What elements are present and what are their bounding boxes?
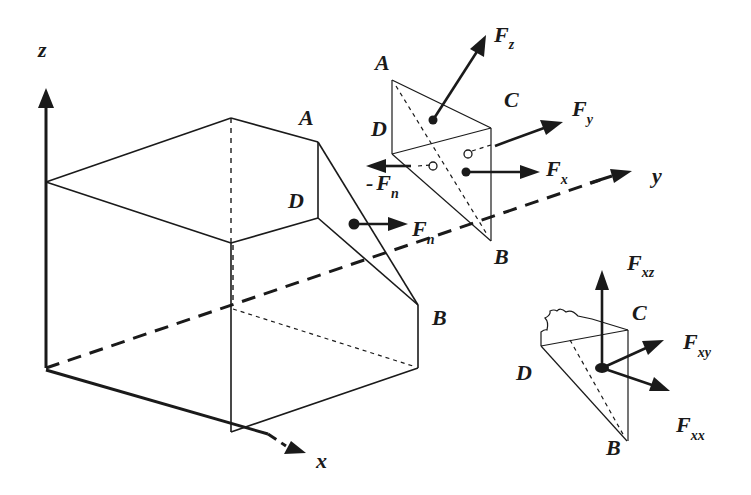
tet-vertex-C-label: C bbox=[504, 87, 519, 112]
detail-vertex-D-label: D bbox=[515, 360, 532, 385]
cube-hidden-bottom-edge bbox=[233, 309, 416, 367]
fx-label: Fx bbox=[545, 156, 568, 187]
z-axis-label: z bbox=[37, 37, 47, 62]
x-axis-arrowhead bbox=[284, 441, 306, 454]
detail-edge-D-C bbox=[541, 330, 628, 346]
cube-bottom-right-edge bbox=[231, 368, 418, 432]
fxx-force-arrow bbox=[602, 368, 652, 385]
tet-vertex-D-label: D bbox=[370, 116, 387, 141]
tetrahedron-free-body: A C D B Fz Fy Fx -Fn bbox=[366, 22, 594, 269]
fy-force-arrow bbox=[495, 128, 544, 146]
y-axis-line bbox=[46, 180, 600, 368]
fn-arrowhead bbox=[388, 217, 408, 231]
coordinate-axes: z x y bbox=[37, 37, 662, 473]
detail-torn-edge bbox=[541, 309, 628, 346]
y-axis-line-end bbox=[590, 176, 612, 183]
tet-vertex-B-label: B bbox=[493, 244, 509, 269]
cut-edge-D-B bbox=[318, 218, 418, 305]
cube-vertex-D-label: D bbox=[287, 188, 304, 213]
tet-hidden-edge-A-B bbox=[396, 86, 488, 236]
cube-vertex-B-label: B bbox=[431, 305, 447, 330]
fz-force-arrow bbox=[433, 50, 478, 120]
fxz-arrowhead bbox=[595, 270, 609, 290]
fxx-arrowhead bbox=[649, 377, 670, 391]
x-axis-line-end bbox=[268, 434, 286, 446]
fz-label: Fz bbox=[493, 22, 515, 52]
y-axis-arrowhead bbox=[610, 169, 632, 183]
stress-tetrahedron-diagram: z x y A D B bbox=[0, 0, 751, 495]
cube-element: A D B Fn bbox=[46, 105, 447, 432]
fz-arrowhead bbox=[470, 35, 486, 57]
fxz-label: Fxz bbox=[626, 250, 655, 280]
detail-hidden-edge bbox=[570, 340, 624, 436]
fn-label: Fn bbox=[411, 216, 435, 247]
cube-top-edge-to-D bbox=[231, 218, 318, 243]
cube-top-back-edge bbox=[46, 118, 231, 182]
fy-label: Fy bbox=[571, 96, 594, 127]
fxx-label: Fxx bbox=[675, 412, 705, 443]
fxy-force-arrow bbox=[602, 348, 646, 368]
z-axis-arrowhead bbox=[38, 88, 54, 108]
y-axis-label: y bbox=[649, 163, 662, 188]
detail-vertex-C-label: C bbox=[632, 300, 647, 325]
x-axis-label: x bbox=[315, 448, 327, 473]
tet-vertex-A-label: A bbox=[373, 50, 390, 75]
cube-vertex-A-label: A bbox=[297, 105, 314, 130]
fy-arrowhead bbox=[540, 120, 563, 135]
fxy-arrowhead bbox=[642, 340, 664, 355]
detail-vertex-B-label: B bbox=[605, 435, 621, 460]
tet-hidden-line-ring1 bbox=[418, 165, 432, 166]
tet-hidden-line-ring2 bbox=[472, 145, 491, 151]
neg-fn-label: -Fn bbox=[366, 170, 399, 201]
cube-top-front-edge bbox=[46, 182, 231, 243]
fx-arrowhead bbox=[520, 165, 540, 179]
x-axis-line bbox=[46, 370, 268, 434]
tet-hidden-point-2 bbox=[464, 150, 472, 158]
tet-edge-D-C bbox=[392, 128, 491, 154]
tet-hidden-point-1 bbox=[429, 162, 437, 170]
detail-edge-D-B bbox=[541, 346, 627, 441]
stress-components-detail: C D B Fxz Fxy Fxx bbox=[515, 250, 712, 460]
fxy-label: Fxy bbox=[682, 329, 712, 360]
tet-edge-A-C bbox=[392, 80, 491, 128]
